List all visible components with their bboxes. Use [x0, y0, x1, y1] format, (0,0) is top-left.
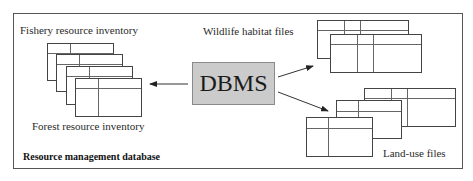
arrow-to-wildlife — [278, 66, 313, 77]
connector-arrows — [0, 0, 473, 181]
arrow-to-landuse — [278, 92, 328, 111]
